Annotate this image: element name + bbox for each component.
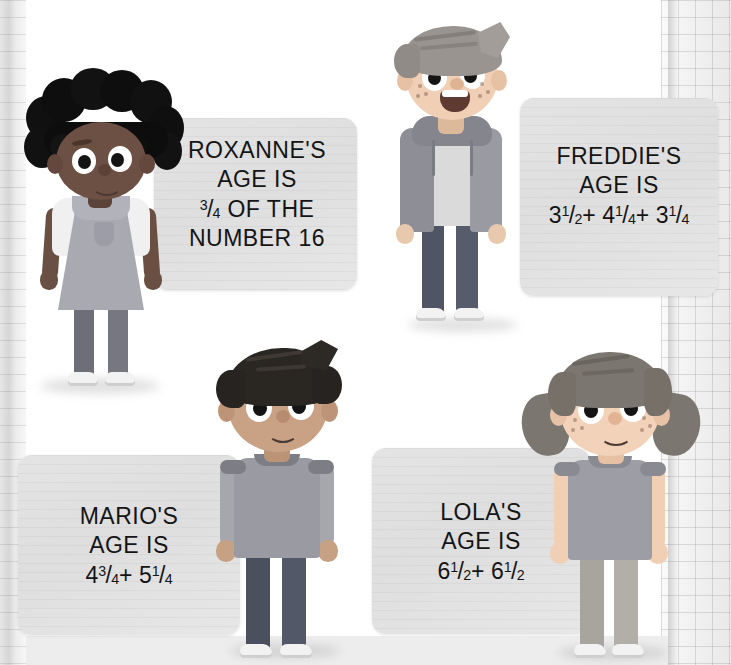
mario-hand-left (216, 540, 236, 562)
lola-shoe-left (574, 644, 606, 658)
mario-line1: MARIO'S (40, 502, 218, 531)
roxanne-line3: 3/4 OF THE (176, 195, 338, 224)
lola-leg-right (614, 548, 638, 650)
mario-shoe-right (280, 644, 312, 658)
lola-hair (548, 344, 672, 410)
mario-sleeve-cuff-left (220, 460, 246, 474)
freddie-line1: FREDDIE'S (528, 142, 710, 171)
lola-equation: 61/2+ 61/2 (392, 557, 570, 586)
roxanne-head (56, 122, 146, 200)
mario-term-1: 43/4 (85, 561, 119, 590)
roxanne-shoe-right (105, 372, 135, 386)
mario-equation: 43/4+ 51/4 (40, 561, 218, 590)
roxanne-dress-pocket (94, 222, 114, 246)
lola-operator: + (471, 558, 484, 584)
mario-operator: + (119, 562, 132, 588)
worksheet-page: ROXANNE'S AGE IS 3/4 OF THE NUMBER 16 FR… (0, 0, 731, 665)
freddie-hand-left (396, 224, 414, 244)
freddie-equation: 31/2+ 41/4+ 31/4 (528, 201, 710, 230)
lola-term-1: 61/2 (437, 557, 471, 586)
freddie-line2: AGE IS (528, 171, 710, 200)
freddie-hair (394, 18, 510, 76)
freddie-leg-left (422, 218, 444, 314)
lola-shoe-right (612, 644, 644, 658)
lola-line2: AGE IS (392, 527, 570, 556)
roxanne-line3-suffix: OF THE (221, 196, 315, 222)
freddie-operator-2: + (636, 202, 649, 228)
character-mario (196, 332, 372, 665)
freddie-drawstring-left (432, 140, 435, 176)
roxanne-fraction: 3/4 (200, 195, 221, 224)
character-roxanne (10, 60, 200, 400)
freddie-term-3: 31/4 (656, 201, 690, 230)
freddie-drawstring-right (470, 140, 473, 176)
mario-hair (216, 338, 344, 408)
lola-sleeve-cuff-left (554, 462, 580, 476)
mario-leg-left (246, 546, 270, 650)
mario-shoe-left (240, 644, 272, 658)
roxanne-line1: ROXANNE'S (176, 136, 338, 165)
lola-sleeve-cuff-right (640, 462, 666, 476)
card-text-roxanne: ROXANNE'S AGE IS 3/4 OF THE NUMBER 16 (176, 136, 338, 254)
card-text-freddie: FREDDIE'S AGE IS 31/2+ 41/4+ 31/4 (528, 142, 710, 230)
card-text-lola: LOLA'S AGE IS 61/2+ 61/2 (392, 498, 570, 586)
freddie-operator-1: + (582, 202, 595, 228)
freddie-term-1: 31/2 (549, 201, 583, 230)
roxanne-line2: AGE IS (176, 165, 338, 194)
mario-sleeve-cuff-right (308, 460, 334, 474)
roxanne-hand-left (40, 270, 58, 290)
mario-hand-right (318, 540, 338, 562)
roxanne-hand-right (144, 270, 162, 290)
lola-leg-left (580, 548, 604, 650)
lola-tshirt (568, 460, 652, 560)
roxanne-shoe-left (68, 372, 98, 386)
freddie-hand-right (488, 224, 506, 244)
lola-term-2: 61/2 (491, 557, 525, 586)
freddie-leg-right (456, 218, 478, 314)
mario-line2: AGE IS (40, 531, 218, 560)
roxanne-line4: NUMBER 16 (176, 224, 338, 253)
mario-tshirt (234, 458, 320, 558)
freddie-shoe-right (454, 308, 484, 321)
freddie-shoe-left (416, 308, 446, 321)
character-freddie (378, 12, 548, 342)
freddie-term-2: 41/4 (602, 201, 636, 230)
lola-line1: LOLA'S (392, 498, 570, 527)
mario-leg-right (282, 546, 306, 650)
mario-term-2: 51/4 (139, 561, 173, 590)
card-text-mario: MARIO'S AGE IS 43/4+ 51/4 (40, 502, 218, 590)
